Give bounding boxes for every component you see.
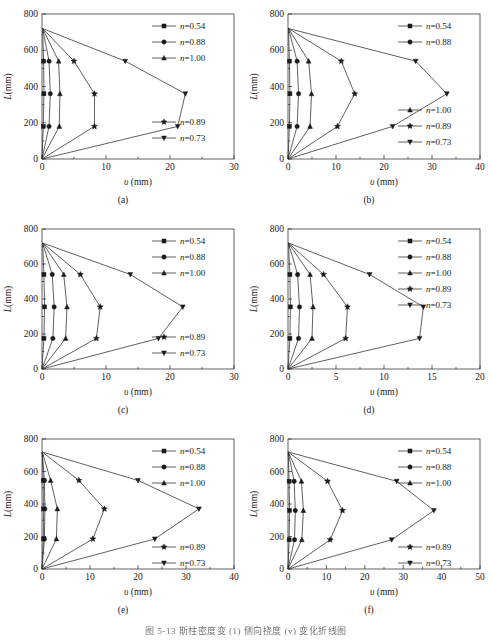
legend-label: n=0.88 xyxy=(180,37,206,47)
legend-label: n=0.54 xyxy=(180,236,206,246)
panel-grid: 01020300200400600800L(mm)υ (mm)(a)n=0.54… xyxy=(0,0,492,625)
legend-marker-circle xyxy=(408,255,412,259)
x-tick-label: 30 xyxy=(427,162,437,172)
panel-d: 051015200200400600800L(mm)υ (mm)(d)n=0.5… xyxy=(246,215,492,425)
data-point-circle xyxy=(47,124,51,128)
data-point-triangle-up xyxy=(57,124,62,129)
data-point-star xyxy=(352,91,358,97)
y-tick-label: 400 xyxy=(270,82,285,92)
x-axis-title: υ (mm) xyxy=(370,387,398,398)
data-point-square xyxy=(287,479,291,483)
panel-label: (b) xyxy=(363,195,374,206)
series-n054 xyxy=(42,243,47,369)
x-tick-label: 5 xyxy=(334,372,339,382)
x-axis-title: υ (mm) xyxy=(370,177,398,188)
data-point-triangle-up xyxy=(56,59,61,64)
legend-marker-square xyxy=(408,239,412,243)
data-point-circle xyxy=(296,92,300,96)
legend-marker-circle xyxy=(162,255,166,259)
legend-item: n=0.88 xyxy=(398,37,452,47)
legend-item: n=0.73 xyxy=(398,558,452,568)
series-n073 xyxy=(42,29,188,160)
panel-label: (f) xyxy=(364,605,374,616)
x-tick-label: 30 xyxy=(398,572,408,582)
legend-label: n=0.89 xyxy=(180,117,206,127)
y-tick-label: 0 xyxy=(33,154,38,164)
figure-caption-text: 图 5-13 斯柱密度变 (1) 侧向挠度 (v) 变化折线图 xyxy=(0,624,492,638)
legend-marker-square xyxy=(162,24,166,28)
y-tick-label: 800 xyxy=(270,434,285,444)
panel-f: 010203040500200400600800L(mm)υ (mm)(f)n=… xyxy=(246,425,492,625)
x-tick-label: 0 xyxy=(40,572,45,582)
legend-label: n=0.89 xyxy=(426,284,452,294)
legend-item: n=0.88 xyxy=(152,462,206,472)
y-tick-label: 800 xyxy=(270,224,285,234)
legend-item: n=0.89 xyxy=(398,284,452,294)
panel-c: 01020300200400600800L(mm)υ (mm)(c)n=0.54… xyxy=(0,215,246,425)
legend-item: n=1.00 xyxy=(398,268,452,278)
data-point-circle xyxy=(295,124,299,128)
data-point-circle xyxy=(52,305,56,309)
x-tick-label: 20 xyxy=(360,572,370,582)
data-point-triangle-down xyxy=(197,507,202,512)
legend-label: n=0.88 xyxy=(426,37,452,47)
legend-item: n=0.54 xyxy=(152,21,206,31)
data-point-star xyxy=(338,58,344,64)
legend-label: n=0.73 xyxy=(180,133,206,143)
data-point-square xyxy=(42,336,46,340)
legend-item: n=0.54 xyxy=(152,446,206,456)
x-axis-title: υ (mm) xyxy=(124,387,152,398)
legend-label: n=0.89 xyxy=(180,332,206,342)
x-tick-label: 40 xyxy=(475,162,485,172)
legend-group: n=0.54n=0.88n=1.00 xyxy=(152,236,206,278)
series-polyline xyxy=(42,243,183,369)
chart-b: 0102030400200400600800L(mm)υ (mm)(b)n=0.… xyxy=(246,0,492,215)
y-tick-label: 600 xyxy=(270,45,285,55)
y-tick-label: 400 xyxy=(270,294,285,304)
legend-label: n=0.89 xyxy=(426,542,452,552)
y-tick-label: 0 xyxy=(33,564,38,574)
legend-label: n=0.54 xyxy=(426,236,452,246)
x-tick-label: 15 xyxy=(427,372,437,382)
legend-label: n=0.54 xyxy=(426,446,452,456)
series-n089 xyxy=(42,452,107,569)
data-point-square xyxy=(41,124,45,128)
legend-marker-square xyxy=(408,449,412,453)
data-point-triangle-down xyxy=(432,509,437,514)
x-tick-label: 20 xyxy=(165,162,175,172)
y-axis-title: L(mm) xyxy=(249,286,260,313)
legend-item: n=0.88 xyxy=(152,37,206,47)
y-tick-label: 200 xyxy=(24,532,39,542)
data-point-star xyxy=(343,335,349,341)
legend-item: n=0.73 xyxy=(398,137,452,147)
y-tick-label: 800 xyxy=(24,9,39,19)
legend-label: n=1.00 xyxy=(426,105,452,115)
y-axis-title: L(mm) xyxy=(249,73,260,100)
y-tick-label: 800 xyxy=(270,9,285,19)
x-tick-label: 30 xyxy=(229,162,239,172)
x-axis-title: υ (mm) xyxy=(124,177,152,188)
data-point-triangle-up xyxy=(309,91,314,96)
data-point-circle xyxy=(50,272,54,276)
x-tick-label: 20 xyxy=(133,572,143,582)
figure-container: 01020300200400600800L(mm)υ (mm)(a)n=0.54… xyxy=(0,0,492,644)
data-point-triangle-up xyxy=(63,336,68,341)
data-point-star xyxy=(325,478,331,484)
data-point-star xyxy=(97,304,103,310)
data-point-triangle-down xyxy=(136,478,141,483)
series-polyline xyxy=(42,243,100,369)
y-tick-label: 200 xyxy=(270,532,285,542)
legend-label: n=0.89 xyxy=(180,542,206,552)
plot-frame xyxy=(288,229,480,369)
data-point-triangle-down xyxy=(128,273,133,278)
x-tick-label: 10 xyxy=(101,162,111,172)
y-tick-label: 400 xyxy=(270,499,285,509)
y-tick-label: 0 xyxy=(279,564,284,574)
legend-label: n=1.00 xyxy=(426,268,452,278)
chart-d: 051015200200400600800L(mm)υ (mm)(d)n=0.5… xyxy=(246,215,492,425)
panel-label: (e) xyxy=(118,605,129,616)
data-point-square xyxy=(287,538,291,542)
x-tick-label: 10 xyxy=(331,162,341,172)
data-point-square xyxy=(288,509,292,513)
legend-marker-circle xyxy=(408,40,412,44)
